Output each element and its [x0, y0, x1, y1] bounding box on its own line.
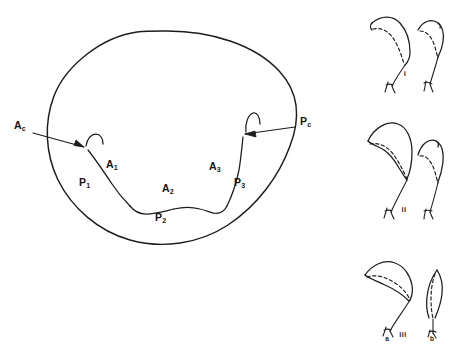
main-outline-group — [47, 31, 296, 244]
panel-i-hook-left-outline — [372, 17, 410, 65]
label-pc: Pc — [300, 115, 311, 128]
panel-ii-hook-right — [418, 140, 443, 219]
panel-ii-hook-left-ventral-edge — [368, 141, 407, 180]
label-p3: P3 — [234, 176, 245, 189]
panel-i-hook-right — [418, 21, 443, 92]
inner-boundary-central-arc — [174, 208, 213, 214]
side-panel-iii: iii a b — [365, 262, 442, 342]
label-ac: Ac — [14, 119, 26, 132]
panel-i-hook-right-tip — [438, 23, 440, 28]
arrow-pc-head — [245, 131, 256, 137]
panel-i-hook-left-dashed-contour — [373, 29, 404, 64]
figure-canvas: Ac Pc A1 A2 A3 P1 P2 P3 — [0, 0, 453, 349]
callout-arrow-ac — [33, 133, 84, 147]
panel-iii-numeral: iii — [399, 330, 406, 339]
inner-boundary-right-branch — [227, 137, 243, 206]
panel-i-hook-right-outline — [418, 21, 443, 57]
label-a1: A1 — [106, 158, 118, 171]
panel-ii-hook-left-dashed-contour — [370, 143, 407, 179]
panel-iii-hook-right — [427, 270, 443, 338]
panel-i-hook-left-lower-edge — [371, 23, 373, 30]
arrow-ac-head — [74, 140, 84, 147]
panel-iii-sublabel-a: a — [385, 335, 389, 342]
panel-ii-numeral: ii — [402, 205, 407, 214]
callout-arrow-pc — [245, 127, 295, 137]
panel-i-numeral: i — [404, 69, 406, 78]
side-panel-ii: ii — [368, 123, 443, 219]
panel-ii-hook-right-foot — [424, 209, 433, 219]
panel-iii-sublabel-b: b — [430, 335, 434, 342]
posterior-notch-hook — [246, 113, 260, 132]
panel-i-hook-left — [371, 17, 411, 93]
panel-iii-hook-right-outline — [435, 270, 442, 318]
label-a3: A3 — [209, 160, 221, 173]
panel-ii-hook-right-stem — [430, 182, 438, 212]
label-p2: P2 — [155, 211, 166, 224]
panel-ii-hook-right-outline — [418, 140, 443, 182]
outer-oval-outline — [47, 31, 296, 244]
figure-root: Ac Pc A1 A2 A3 P1 P2 P3 — [0, 0, 453, 349]
panel-ii-hook-right-dashed-contour — [420, 156, 438, 183]
panel-ii-hook-right-tip — [436, 141, 438, 147]
inner-boundary-left-scallop — [130, 206, 174, 214]
panel-i-hook-right-dashed-contour — [420, 31, 438, 58]
panel-iii-hook-left-outline — [365, 262, 412, 300]
label-a2: A2 — [162, 182, 174, 195]
inner-boundary-right-scallop — [213, 206, 227, 213]
panel-ii-hook-left-outline — [368, 123, 412, 179]
side-panel-i: i — [371, 17, 444, 93]
panel-iii-hook-left — [365, 262, 412, 337]
panel-i-hook-right-stem — [430, 57, 438, 84]
anterior-notch-hook — [86, 134, 103, 146]
panel-i-hook-right-foot — [424, 81, 433, 92]
label-p1: P1 — [79, 176, 90, 189]
panel-iii-hook-left-stem — [390, 300, 410, 331]
